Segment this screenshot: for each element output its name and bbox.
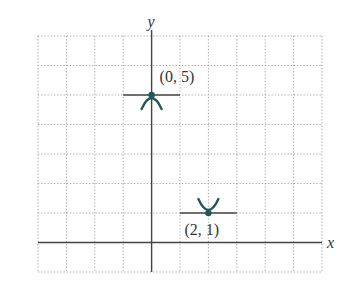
x-axis-label: x [326, 234, 334, 251]
data-point [205, 210, 211, 216]
y-axis-label: y [146, 13, 156, 31]
data-point [148, 92, 154, 98]
point-label: (2, 1) [184, 221, 219, 239]
axes [38, 30, 322, 272]
local-min-arc [198, 199, 218, 210]
point-label: (0, 5) [160, 68, 195, 86]
plot-area: (0, 5)(2, 1) x y [0, 0, 348, 286]
chart: (0, 5)(2, 1) x y [0, 0, 348, 286]
